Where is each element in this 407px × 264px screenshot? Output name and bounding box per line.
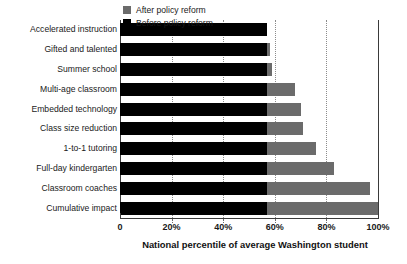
x-tick-label: 100% [366,222,389,232]
x-axis-cap-left [120,213,121,219]
x-tick-label: 80% [317,222,335,232]
category-label: Classroom coaches [1,182,117,195]
bar-row [120,162,378,175]
plot-area [120,20,378,218]
legend-item-after: After policy reform [123,4,253,16]
bar-row [120,43,378,56]
bar-segment-before [120,142,267,155]
bar-row [120,63,378,76]
bar-segment-after [267,83,295,96]
category-label: Accelerated instruction [1,23,117,36]
gridline-100 [378,20,379,218]
legend-swatch-after-icon [123,6,131,14]
bar-row [120,202,378,215]
x-axis-cap-right [378,213,379,219]
x-tick-label: 20% [163,222,181,232]
bar-segment-before [120,103,267,116]
legend-label-before: Before policy reform [136,18,213,28]
bar-segment-before [120,162,267,175]
bar-segment-after [267,43,270,56]
bar-chart: Accelerated instructionGifted and talent… [0,0,407,264]
bar-segment-after [267,142,316,155]
bar-row [120,122,378,135]
x-axis-line [120,218,379,219]
category-axis-labels: Accelerated instructionGifted and talent… [0,20,117,218]
category-label: Gifted and talented [1,43,117,56]
bar-row [120,83,378,96]
category-label: Summer school [1,63,117,76]
legend-label-after: After policy reform [136,5,206,15]
category-label: 1-to-1 tutoring [1,142,117,155]
category-label: Class size reduction [1,122,117,135]
legend-swatch-before-icon [123,19,131,27]
bar-segment-after [267,182,370,195]
legend-item-before: Before policy reform [123,17,253,29]
bar-row [120,182,378,195]
bar-segment-after [267,122,303,135]
category-label: Multi-age classroom [1,83,117,96]
category-label: Cumulative impact [1,202,117,215]
bar-row [120,103,378,116]
x-tick-label: 40% [214,222,232,232]
legend: After policy reform Before policy reform [123,4,253,30]
bar-segment-before [120,83,267,96]
bar-segment-before [120,43,267,56]
bar-segment-after [267,103,301,116]
x-tick-label: 60% [266,222,284,232]
x-axis-title: National percentile of average Washingto… [110,239,400,250]
bar-segment-before [120,202,267,215]
category-label: Embedded technology [1,103,117,116]
bar-segment-before [120,63,267,76]
bar-segment-after [267,63,272,76]
bar-segment-before [120,182,267,195]
x-tick-label: 0 [117,222,122,232]
bar-row [120,142,378,155]
bar-segment-after [267,202,378,215]
category-label: Full-day kindergarten [1,162,117,175]
bar-segment-before [120,122,267,135]
bar-segment-after [267,162,334,175]
